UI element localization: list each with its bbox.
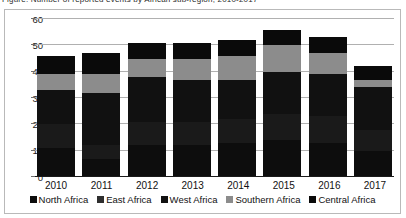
bar-segment[interactable]	[263, 140, 301, 177]
bar-segment[interactable]	[263, 72, 301, 114]
bar-segment[interactable]	[218, 40, 256, 56]
legend-item[interactable]: Southern Africa	[226, 194, 300, 205]
bar-segment[interactable]	[37, 56, 75, 74]
legend-swatch-icon	[309, 196, 316, 203]
bar-segment[interactable]	[128, 43, 166, 59]
legend-swatch-icon	[226, 196, 233, 203]
bar-segment[interactable]	[263, 30, 301, 46]
chart-frame: 0102030405060 20102011201220132014201520…	[4, 9, 401, 214]
stacked-bar[interactable]	[263, 30, 301, 177]
bar-segment[interactable]	[82, 145, 120, 158]
bar-segment[interactable]	[309, 37, 347, 53]
clipped-caption-text: Figure: Number of reported events by Afr…	[2, 0, 258, 4]
bar-segment[interactable]	[354, 66, 392, 79]
bar-segment[interactable]	[128, 145, 166, 177]
bar-segment[interactable]	[218, 143, 256, 177]
x-axis-tick-label: 2011	[83, 179, 121, 192]
legend-label: East Africa	[106, 194, 151, 205]
bar-segment[interactable]	[263, 45, 301, 71]
plot-area	[35, 19, 394, 177]
bar-segment[interactable]	[218, 56, 256, 80]
bar-series-container	[35, 19, 394, 177]
bar-segment[interactable]	[354, 87, 392, 129]
x-axis-tick-label: 2015	[265, 179, 303, 192]
bar-segment[interactable]	[37, 124, 75, 148]
x-axis-tick-label: 2012	[128, 179, 166, 192]
x-axis-baseline	[35, 176, 394, 178]
chart-legend: North AfricaEast AfricaWest AfricaSouthe…	[5, 194, 400, 205]
bar-segment[interactable]	[354, 80, 392, 88]
legend-swatch-icon	[161, 196, 168, 203]
legend-label: West Africa	[170, 194, 218, 205]
bar-segment[interactable]	[37, 148, 75, 177]
stacked-bar[interactable]	[37, 56, 75, 177]
bar-column[interactable]	[37, 19, 75, 177]
bar-segment[interactable]	[82, 53, 120, 74]
bar-segment[interactable]	[309, 143, 347, 177]
stacked-bar[interactable]	[128, 43, 166, 177]
stacked-bar[interactable]	[218, 40, 256, 177]
bar-segment[interactable]	[128, 77, 166, 122]
clipped-caption-strip: Figure: Number of reported events by Afr…	[0, 0, 406, 8]
bar-segment[interactable]	[309, 116, 347, 142]
bar-segment[interactable]	[128, 122, 166, 146]
bar-segment[interactable]	[82, 93, 120, 146]
bar-segment[interactable]	[37, 74, 75, 90]
bar-segment[interactable]	[354, 151, 392, 177]
legend-label: Southern Africa	[235, 194, 300, 205]
bar-segment[interactable]	[82, 74, 120, 92]
stacked-bar[interactable]	[173, 43, 211, 177]
legend-swatch-icon	[97, 196, 104, 203]
legend-item[interactable]: North Africa	[30, 194, 89, 205]
legend-label: North Africa	[39, 194, 89, 205]
bar-segment[interactable]	[173, 80, 211, 122]
x-axis-labels: 20102011201220132014201520162017	[35, 179, 396, 192]
bar-column[interactable]	[263, 19, 301, 177]
bar-segment[interactable]	[218, 119, 256, 143]
bar-column[interactable]	[354, 19, 392, 177]
bar-column[interactable]	[309, 19, 347, 177]
bar-segment[interactable]	[82, 159, 120, 177]
stacked-bar[interactable]	[309, 37, 347, 177]
legend-swatch-icon	[30, 196, 37, 203]
bar-column[interactable]	[173, 19, 211, 177]
stacked-bar[interactable]	[354, 66, 392, 177]
legend-item[interactable]: East Africa	[97, 194, 151, 205]
bar-segment[interactable]	[218, 80, 256, 120]
x-axis-tick-label: 2010	[37, 179, 75, 192]
bar-segment[interactable]	[354, 130, 392, 151]
bar-segment[interactable]	[173, 122, 211, 146]
bar-column[interactable]	[82, 19, 120, 177]
bar-segment[interactable]	[173, 43, 211, 59]
bar-segment[interactable]	[173, 145, 211, 177]
bar-segment[interactable]	[263, 114, 301, 140]
bar-segment[interactable]	[128, 59, 166, 77]
bar-segment[interactable]	[309, 53, 347, 74]
x-axis-tick-label: 2013	[174, 179, 212, 192]
x-axis-tick-label: 2014	[219, 179, 257, 192]
legend-item[interactable]: Central Africa	[309, 194, 375, 205]
x-axis-tick-label: 2016	[310, 179, 348, 192]
legend-item[interactable]: West Africa	[161, 194, 218, 205]
chart-plot: 0102030405060	[27, 15, 398, 177]
legend-label: Central Africa	[318, 194, 375, 205]
bar-segment[interactable]	[37, 90, 75, 124]
bar-column[interactable]	[218, 19, 256, 177]
bar-segment[interactable]	[309, 74, 347, 116]
stacked-bar[interactable]	[82, 53, 120, 177]
bar-column[interactable]	[128, 19, 166, 177]
bar-segment[interactable]	[173, 59, 211, 80]
x-axis-tick-label: 2017	[356, 179, 394, 192]
